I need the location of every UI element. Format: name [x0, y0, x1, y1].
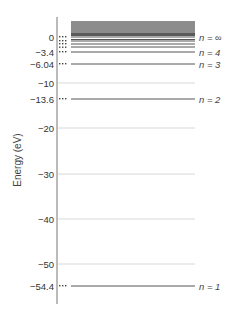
tick-label-0: 0: [49, 32, 54, 43]
dots-minus-13-6: [59, 98, 66, 99]
tick-label-minus-13-6: −13.6: [30, 94, 54, 105]
level-label-n-inf: n = ∞: [199, 32, 222, 43]
tick-label-minus-40: −40: [38, 214, 54, 225]
leader-dots: [59, 36, 66, 286]
continuum-edge: [71, 33, 195, 36]
gridlines: [58, 83, 195, 264]
level-label-n-3: n = 3: [199, 59, 221, 70]
dots-minus-54-4: [59, 285, 66, 286]
level-label-n-1: n = 1: [199, 281, 220, 292]
tick-label-minus-3-4: −3.4: [35, 47, 54, 58]
tick-label-minus-6-04: −6.04: [30, 59, 54, 70]
tick-label-minus-20: −20: [38, 123, 54, 134]
dots-minus-6-04: [59, 63, 66, 64]
dots-minus-3-4: [59, 51, 66, 52]
level-label-n-2: n = 2: [199, 94, 221, 105]
tick-label-minus-30: −30: [38, 169, 54, 180]
level-label-n-4: n = 4: [199, 47, 220, 58]
tick-label-minus-10: −10: [38, 78, 54, 89]
dots-0: [59, 36, 66, 37]
tick-label-minus-50: −50: [38, 259, 54, 270]
tick-label-minus-54-4: −54.4: [30, 281, 54, 292]
y-axis-label: Energy (eV): [12, 133, 23, 186]
energy-level-diagram: 0 −3.4 −6.04 −10 −13.6 −20 −30 −40 −50 −…: [0, 0, 235, 316]
dots-cluster: [59, 40, 66, 48]
